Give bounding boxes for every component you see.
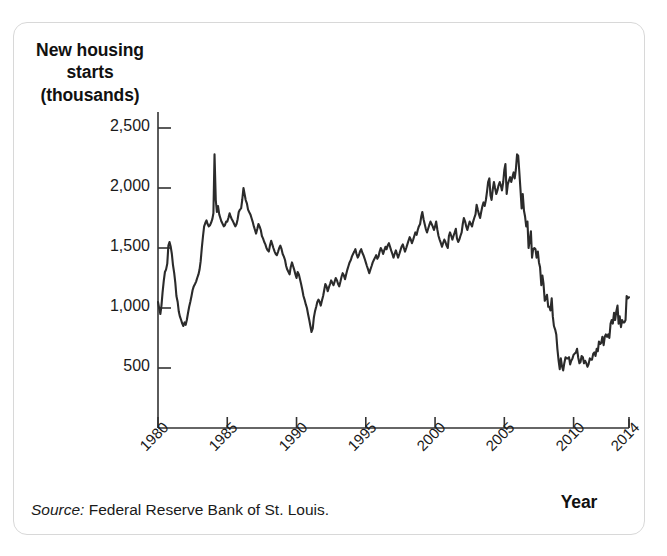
axis-ticks (158, 128, 629, 428)
housing-starts-line-chart (14, 23, 646, 536)
y-tick-label: 2,000 (46, 177, 150, 195)
y-tick-label: 1,500 (46, 237, 150, 255)
source-note: Source: Federal Reserve Bank of St. Loui… (31, 501, 329, 519)
figure-panel: New housing starts (thousands) Year 5001… (13, 22, 645, 535)
y-tick-label: 1,000 (46, 297, 150, 315)
plot-area: New housing starts (thousands) Year 5001… (14, 23, 646, 536)
data-series (158, 154, 629, 370)
source-text: Federal Reserve Bank of St. Louis. (89, 501, 329, 518)
y-tick-label: 2,500 (46, 117, 150, 135)
axes (158, 112, 629, 428)
source-label: Source: (31, 501, 84, 518)
y-tick-label: 500 (46, 357, 150, 375)
